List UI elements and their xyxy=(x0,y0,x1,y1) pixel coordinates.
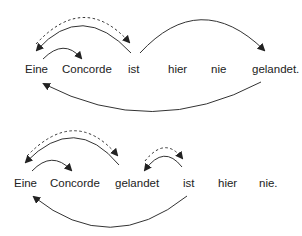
s1-word-ist: ist xyxy=(128,64,140,76)
s2-dashed-arc-gelandet-ist xyxy=(145,148,182,161)
s1-word-gelandet: gelandet. xyxy=(252,64,299,76)
s2-arc-ist-eine xyxy=(34,196,187,227)
s1-word-eine: Eine xyxy=(25,64,48,76)
s2-arc-eine-concorde xyxy=(32,160,71,171)
s1-word-nie: nie xyxy=(211,64,226,76)
dependency-diagram: Eine Concorde ist hier nie gelandet. Ein… xyxy=(0,0,302,236)
s2-arc-ist-gelandet xyxy=(145,156,182,170)
s2-word-hier: hier xyxy=(218,178,237,190)
s2-word-eine: Eine xyxy=(14,178,37,190)
arcs-layer xyxy=(0,0,302,236)
s1-arc-gelandet-eine xyxy=(44,82,261,112)
s1-dashed-arc-eine-ist xyxy=(36,17,129,44)
s2-arc-gelandet-eine xyxy=(26,138,119,165)
s2-word-ist: ist xyxy=(183,178,195,190)
s1-arc-eine-concorde xyxy=(43,48,81,59)
s2-word-gelandet: gelandet xyxy=(115,178,159,190)
s1-word-concorde: Concorde xyxy=(62,64,112,76)
s2-word-nie: nie. xyxy=(259,178,278,190)
s2-word-concorde: Concorde xyxy=(50,178,100,190)
s1-arc-ist-gelandet xyxy=(140,20,264,53)
s1-word-hier: hier xyxy=(168,64,187,76)
s2-dashed-arc-eine-gelandet xyxy=(27,131,117,156)
